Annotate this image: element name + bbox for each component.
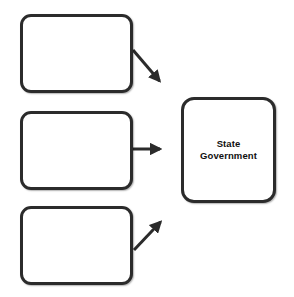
diagram-canvas: State Government <box>0 0 294 297</box>
arrow-source-1-to-state-government <box>133 50 160 81</box>
node-source-3[interactable] <box>20 206 133 285</box>
node-source-2[interactable] <box>20 111 133 190</box>
node-state-government-label: State Government <box>196 138 261 162</box>
arrow-source-3-to-state-government <box>134 222 161 250</box>
node-state-government[interactable]: State Government <box>181 97 276 203</box>
node-source-1[interactable] <box>20 14 133 93</box>
